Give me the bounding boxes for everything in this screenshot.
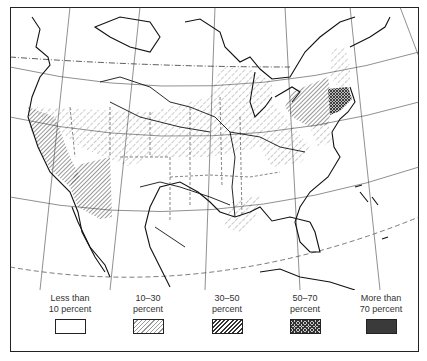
legend-swatch-light-hatch bbox=[133, 319, 164, 334]
legend-item-lt10: Less than 10 percent bbox=[30, 293, 110, 338]
legend-item-10-30: 10–30 percent bbox=[108, 293, 188, 338]
legend-label: Less than 10 percent bbox=[30, 293, 110, 317]
legend-label: 30–50 percent bbox=[187, 293, 267, 317]
legend-item-50-70: 50–70 percent bbox=[265, 293, 345, 338]
legend: Less than 10 percent 10–30 percent 30–50… bbox=[10, 290, 419, 352]
legend-swatch-empty bbox=[55, 319, 86, 334]
tropic-line bbox=[10, 217, 419, 277]
legend-item-30-50: 30–50 percent bbox=[187, 293, 267, 338]
legend-swatch-diagonal-hatch bbox=[212, 319, 243, 334]
legend-item-gt70: More than 70 percent bbox=[341, 293, 421, 338]
legend-label: 50–70 percent bbox=[265, 293, 345, 317]
legend-label: 10–30 percent bbox=[108, 293, 188, 317]
legend-label: More than 70 percent bbox=[341, 293, 421, 317]
legend-swatch-cross-hatch bbox=[290, 319, 321, 334]
map-canvas bbox=[10, 7, 419, 290]
legend-swatch-dark bbox=[366, 319, 397, 334]
